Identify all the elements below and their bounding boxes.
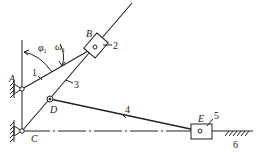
label-link-4: 4 xyxy=(125,104,130,115)
label-link-2: 2 xyxy=(113,40,118,51)
ground-hatching xyxy=(225,131,249,136)
label-b: B xyxy=(86,28,92,39)
label-link-6: 6 xyxy=(233,139,238,150)
label-d: D xyxy=(49,104,58,115)
label-a: A xyxy=(8,73,16,84)
leader-3 xyxy=(66,80,73,83)
label-e: E xyxy=(197,113,204,124)
angle-phi-arc xyxy=(24,52,52,72)
label-link-3: 3 xyxy=(74,79,79,90)
link-3-rod xyxy=(22,3,132,131)
joint-e xyxy=(198,129,202,133)
mechanism-diagram: A B C D E 1 2 3 4 5 6 φ1 ω1 xyxy=(0,0,262,157)
label-omega: ω1 xyxy=(55,41,65,53)
label-phi: φ1 xyxy=(38,42,47,54)
label-link-1: 1 xyxy=(32,67,37,78)
label-c: C xyxy=(31,133,38,144)
joint-b xyxy=(93,45,97,49)
label-link-5: 5 xyxy=(214,110,219,121)
